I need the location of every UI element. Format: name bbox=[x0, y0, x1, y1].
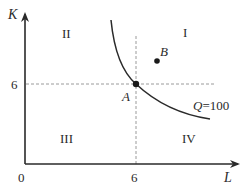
point-a-label: A bbox=[121, 89, 130, 104]
y-tick-6: 6 bbox=[11, 77, 18, 92]
isoquant-diagram: K L 0 6 6 II I III IV A B Q=100 bbox=[0, 0, 244, 192]
x-axis-label: L bbox=[223, 170, 232, 185]
region-iii-label: III bbox=[60, 131, 73, 146]
origin-label: 0 bbox=[18, 170, 25, 185]
y-axis-label: K bbox=[7, 7, 18, 22]
q-value: =100 bbox=[202, 98, 229, 113]
point-a bbox=[133, 81, 139, 87]
point-b bbox=[154, 58, 160, 64]
region-i-label: I bbox=[183, 25, 187, 40]
region-iv-label: IV bbox=[182, 131, 196, 146]
point-b-label: B bbox=[160, 44, 168, 59]
isoquant-label: Q=100 bbox=[193, 98, 229, 113]
x-tick-6: 6 bbox=[131, 170, 138, 185]
region-ii-label: II bbox=[62, 26, 71, 41]
